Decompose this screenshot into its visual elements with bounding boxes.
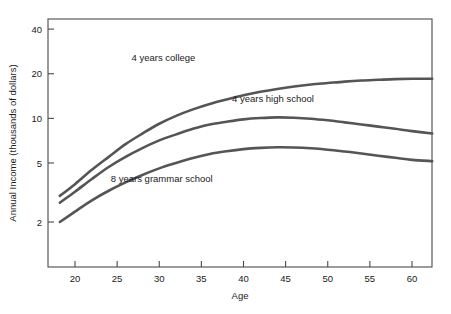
x-axis-title: Age [232, 290, 249, 301]
plot-frame [48, 19, 432, 267]
x-tick-label: 40 [238, 273, 249, 284]
y-tick-label: 5 [37, 158, 42, 169]
x-tick-label: 45 [280, 273, 291, 284]
plot-border [48, 19, 432, 267]
x-tick-label: 30 [154, 273, 165, 284]
x-axis-ticks: 202530354045505560 [70, 261, 418, 284]
y-tick-label: 10 [31, 113, 42, 124]
y-tick-label: 40 [31, 24, 42, 35]
chart-figure: 25102040 202530354045505560 4 years coll… [0, 0, 451, 314]
series-annotation-label: 8 years grammar school [111, 173, 213, 184]
x-tick-label: 50 [322, 273, 333, 284]
x-tick-label: 35 [196, 273, 207, 284]
y-tick-label: 2 [37, 217, 42, 228]
series-line [60, 117, 432, 202]
series-line [60, 147, 432, 222]
x-tick-label: 25 [112, 273, 123, 284]
y-axis-title: Annual Income (thousands of dollars) [7, 64, 18, 221]
income-vs-age-chart: 25102040 202530354045505560 4 years coll… [0, 0, 451, 314]
series-annotation-label: 4 years high school [232, 93, 314, 104]
y-tick-label: 20 [31, 68, 42, 79]
x-tick-label: 55 [365, 273, 376, 284]
y-axis-ticks: 25102040 [31, 24, 54, 228]
x-tick-label: 60 [407, 273, 418, 284]
x-tick-label: 20 [70, 273, 81, 284]
series-annotation-label: 4 years college [132, 52, 196, 63]
